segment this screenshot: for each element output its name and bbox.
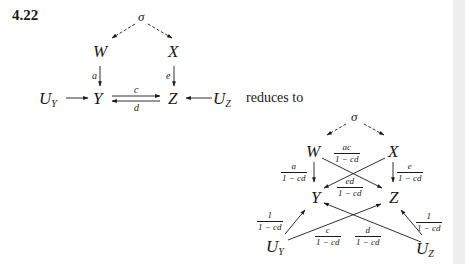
fraction-denominator: 1 − cd — [281, 172, 307, 183]
node-y-reduced: Y — [311, 189, 320, 206]
node-uz-base: U — [213, 89, 225, 108]
node-uy-base: U — [39, 89, 51, 108]
edge-label-e: e — [166, 71, 170, 81]
fraction-denominator: 1 − cd — [315, 236, 341, 247]
node-uy-reduced: UY — [266, 238, 284, 257]
node-uy-base: U — [266, 237, 278, 256]
fraction-w-to-z: ac 1 − cd — [334, 143, 360, 165]
edge-sigma-to-x-dashed — [148, 24, 172, 38]
node-w-reduced: W — [306, 143, 320, 160]
fraction-uz-to-y: d 1 − cd — [355, 226, 381, 248]
fraction-numerator: ac — [342, 143, 353, 153]
node-y: Y — [93, 90, 102, 107]
node-sigma-reduced: σ — [351, 110, 357, 123]
node-uz: UZ — [213, 90, 231, 109]
fraction-x-to-z: e 1 − cd — [397, 162, 423, 184]
node-z: Z — [168, 90, 177, 107]
node-x: X — [168, 43, 178, 60]
fraction-numerator: a — [291, 162, 298, 172]
fraction-uy-to-z: c 1 − cd — [315, 226, 341, 248]
node-uy: UY — [39, 90, 57, 109]
edge-sigma-to-w-dashed-reduced — [327, 124, 346, 135]
fraction-numerator: 1 — [267, 211, 274, 221]
fraction-denominator: 1 − cd — [416, 222, 442, 233]
node-uz-reduced: UZ — [416, 240, 434, 259]
node-uz-subscript: Z — [225, 98, 231, 109]
fraction-numerator: 1 — [426, 212, 433, 222]
problem-number: 4.22 — [12, 8, 38, 23]
fraction-denominator: 1 − cd — [337, 187, 363, 198]
fraction-uy-to-y: 1 1 − cd — [257, 211, 283, 233]
fraction-numerator: ed — [345, 177, 356, 187]
node-uz-base: U — [416, 239, 428, 258]
node-uy-subscript: Y — [278, 246, 284, 257]
fraction-numerator: c — [325, 226, 331, 236]
node-z-reduced: Z — [389, 189, 398, 206]
edge-uy-to-y-reduced — [285, 210, 305, 234]
fraction-denominator: 1 − cd — [257, 221, 283, 232]
node-uz-subscript: Z — [428, 248, 434, 259]
fraction-denominator: 1 − cd — [334, 153, 360, 164]
node-x-reduced: X — [388, 143, 398, 160]
node-w: W — [93, 43, 107, 60]
fraction-numerator: e — [407, 162, 413, 172]
fraction-w-to-y: a 1 − cd — [281, 162, 307, 184]
edge-label-c: c — [134, 85, 138, 95]
fraction-denominator: 1 − cd — [397, 172, 423, 183]
fraction-uz-to-z: 1 1 − cd — [416, 212, 442, 234]
edge-sigma-to-w-dashed — [112, 24, 135, 38]
node-uy-subscript: Y — [51, 98, 57, 109]
fraction-denominator: 1 − cd — [355, 236, 381, 247]
diagram-arrows — [0, 0, 465, 264]
edge-sigma-to-x-dashed-reduced — [364, 124, 384, 135]
edge-label-d: d — [134, 103, 139, 113]
edge-label-a: a — [92, 71, 97, 81]
fraction-numerator: d — [365, 226, 372, 236]
reduces-to-text: reduces to — [246, 91, 303, 105]
node-sigma: σ — [138, 10, 144, 23]
fraction-x-to-y: ed 1 − cd — [337, 177, 363, 199]
